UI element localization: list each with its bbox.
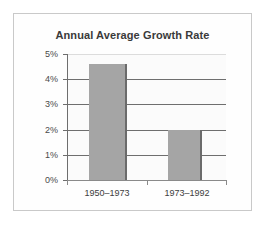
x-tick-mark-middle [147,181,148,185]
x-tick-label-1950-1973: 1950–1973 [67,188,147,198]
chart-figure: Annual Average Growth Rate 5% 4% 3% 2% 1… [0,0,267,227]
x-tick-mark-end [226,181,227,185]
x-tick-mark-start [67,181,68,185]
x-tick-label-1973-1992: 1973–1992 [147,188,227,198]
y-axis-line [67,54,68,181]
bar-1950-1973 [89,64,127,180]
y-tick-mark-2 [63,130,67,131]
y-tick-label-1: 1% [28,151,58,160]
chart-title: Annual Average Growth Rate [13,29,252,41]
y-tick-mark-5 [63,54,67,55]
y-tick-label-0: 0% [28,176,58,185]
y-tick-mark-1 [63,155,67,156]
y-tick-label-4: 4% [28,75,58,84]
y-tick-label-3: 3% [28,100,58,109]
gridline-5 [68,54,226,55]
y-tick-label-2: 2% [28,126,58,135]
bar-1973-1992 [168,130,202,180]
y-tick-mark-3 [63,104,67,105]
y-tick-label-5: 5% [28,50,58,59]
y-tick-mark-4 [63,79,67,80]
